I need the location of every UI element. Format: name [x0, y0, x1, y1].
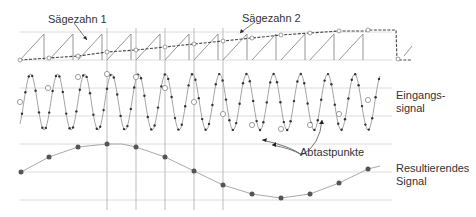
sawtooth-sample-circles	[18, 28, 400, 62]
label-sawtooth-1: Sägezahn 1	[48, 13, 107, 26]
input-sine-curve	[20, 74, 380, 130]
label-input-signal: Eingangs- signal	[396, 89, 446, 115]
label-sawtooth-2: Sägezahn 2	[242, 12, 301, 25]
label-result-signal: Resultierendes Signal	[396, 162, 469, 188]
vertical-sample-lines	[107, 28, 223, 210]
label-result-signal-line2: Signal	[396, 175, 469, 188]
label-sample-points: Abtastpunkte	[300, 146, 364, 159]
label-result-signal-line1: Resultierendes	[396, 162, 469, 175]
label-input-signal-line1: Eingangs-	[396, 89, 446, 102]
label-input-signal-line2: signal	[396, 102, 446, 115]
